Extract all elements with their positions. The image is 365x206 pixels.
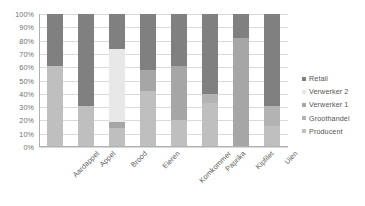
bar-segment[interactable] (78, 14, 94, 106)
bar-column (140, 14, 156, 147)
gridline (39, 147, 288, 148)
bar-segment[interactable] (264, 126, 280, 147)
bars-layer (39, 14, 288, 147)
bar-segment[interactable] (171, 120, 187, 147)
legend-label: Producent (309, 127, 343, 136)
bar-segment[interactable] (109, 14, 125, 49)
bar-column (47, 14, 63, 147)
legend-item[interactable]: Verwerker 2 (302, 85, 364, 98)
bar-segment[interactable] (202, 14, 218, 94)
legend-swatch-icon (302, 129, 306, 133)
bar-segment[interactable] (264, 106, 280, 126)
bar-segment[interactable] (78, 106, 94, 147)
x-axis-category-label: Brood (129, 149, 149, 169)
y-axis-tick-label: 0% (23, 143, 34, 152)
stacked-bar[interactable] (202, 14, 218, 147)
bar-segment[interactable] (47, 14, 63, 66)
plot-area (39, 14, 288, 147)
legend-item[interactable]: Retail (302, 72, 364, 85)
legend-label: Verwerker 2 (309, 87, 348, 96)
y-axis-tick-label: 70% (19, 49, 34, 58)
legend-swatch-icon (302, 116, 306, 120)
stacked-bar[interactable] (140, 14, 156, 147)
y-axis-tick-label: 30% (19, 103, 34, 112)
bar-segment[interactable] (109, 128, 125, 147)
x-axis-labels: AardappelAppelBroodEierenKomkommerPaprik… (39, 149, 288, 204)
bar-column (78, 14, 94, 147)
bar-segment[interactable] (140, 14, 156, 70)
legend-item[interactable]: Verwerker 1 (302, 98, 364, 111)
legend-swatch-icon (302, 90, 306, 94)
legend-item[interactable]: Groothandel (302, 112, 364, 125)
x-axis-category-label: Eieren (160, 149, 181, 170)
stacked-bar[interactable] (171, 14, 187, 147)
stacked-bar[interactable] (109, 14, 125, 147)
bar-segment[interactable] (233, 14, 249, 38)
bar-segment[interactable] (109, 49, 125, 122)
stacked-bar[interactable] (264, 14, 280, 147)
legend-swatch-icon (302, 77, 306, 81)
y-axis-tick-label: 40% (19, 89, 34, 98)
stacked-bar[interactable] (233, 14, 249, 147)
y-axis-line (39, 14, 40, 147)
y-axis-tick-label: 20% (19, 116, 34, 125)
y-axis-tick-label: 80% (19, 36, 34, 45)
y-axis-labels: 0%10%20%30%40%50%60%70%80%90%100% (0, 8, 37, 153)
chart-legend: RetailVerwerker 2Verwerker 1GroothandelP… (302, 72, 364, 138)
x-axis-category-label: Aardappel (70, 149, 100, 179)
legend-label: Verwerker 1 (309, 100, 348, 109)
x-axis-category-label: Appel (97, 149, 117, 169)
bar-segment[interactable] (264, 14, 280, 106)
bar-column (264, 14, 280, 147)
y-axis-tick-label: 50% (19, 76, 34, 85)
stacked-bar[interactable] (78, 14, 94, 147)
legend-label: Groothandel (309, 114, 350, 123)
stacked-bar-chart: 0%10%20%30%40%50%60%70%80%90%100% Aardap… (0, 0, 365, 206)
bar-column (202, 14, 218, 147)
legend-label: Retail (309, 74, 328, 83)
y-axis-tick-label: 60% (19, 63, 34, 72)
legend-swatch-icon (302, 103, 306, 107)
x-axis-category-label: Kipfilet (254, 149, 276, 171)
stacked-bar[interactable] (47, 14, 63, 147)
legend-item[interactable]: Producent (302, 125, 364, 138)
bar-segment[interactable] (140, 91, 156, 147)
bar-segment[interactable] (47, 66, 63, 147)
bar-segment[interactable] (171, 14, 187, 66)
bar-segment[interactable] (109, 122, 125, 129)
y-axis-tick-label: 90% (19, 23, 34, 32)
y-axis-tick-label: 100% (15, 10, 34, 19)
bar-segment[interactable] (171, 66, 187, 121)
bar-segment[interactable] (202, 103, 218, 147)
x-axis-category-label: Uien (283, 149, 300, 166)
bar-column (233, 14, 249, 147)
x-axis-line (39, 146, 288, 147)
bar-column (171, 14, 187, 147)
y-axis-tick-label: 10% (19, 129, 34, 138)
bar-column (109, 14, 125, 147)
bar-segment[interactable] (233, 38, 249, 147)
bar-segment[interactable] (140, 70, 156, 91)
bar-segment[interactable] (202, 94, 218, 103)
